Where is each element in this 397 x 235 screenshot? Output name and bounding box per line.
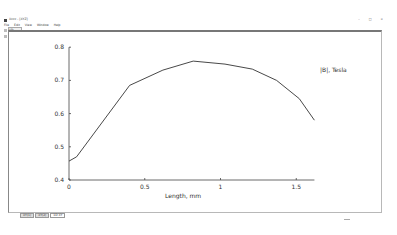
y-tick-label: 0.4 bbox=[54, 176, 64, 183]
doc-tab-1d-xy[interactable]: 1D XY bbox=[50, 213, 65, 218]
y-tick-label: 0.8 bbox=[54, 43, 64, 50]
y-tick-label: 0.7 bbox=[54, 76, 64, 83]
x-tick-label: 1.5 bbox=[291, 183, 301, 190]
chart-axes bbox=[69, 47, 314, 180]
x-tick-label: 0.5 bbox=[140, 183, 150, 190]
status-indicator bbox=[344, 219, 350, 220]
y-tick-label: 0.5 bbox=[54, 143, 64, 150]
x-tick-label: 0 bbox=[67, 183, 71, 190]
x-axis-title: Length, mm bbox=[165, 192, 201, 200]
x-tick-label: 1 bbox=[219, 183, 223, 190]
legend-label: |B|, Tesla bbox=[320, 66, 347, 74]
line-chart: 00.511.50.40.50.60.70.8 |B|, Tesla Lengt… bbox=[0, 0, 397, 235]
series-line-b-tesla bbox=[69, 61, 314, 161]
document-tabs: XY(1) XY(2) 1D XY bbox=[20, 213, 65, 217]
y-tick-label: 0.6 bbox=[54, 110, 64, 117]
doc-tab-xy1[interactable]: XY(1) bbox=[20, 213, 34, 218]
doc-tab-xy2[interactable]: XY(2) bbox=[35, 213, 49, 218]
